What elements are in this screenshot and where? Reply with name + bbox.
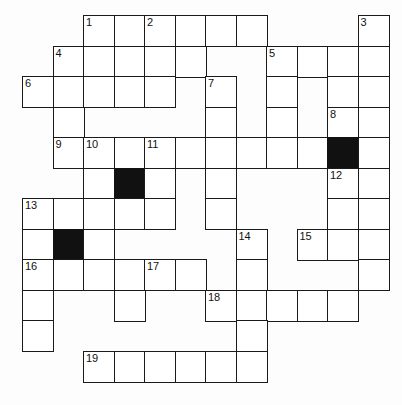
crossword-cell[interactable] xyxy=(358,259,390,291)
crossword-cell[interactable]: 13 xyxy=(22,198,54,230)
crossword-cell[interactable] xyxy=(327,46,359,78)
crossword-cell[interactable] xyxy=(358,198,390,230)
crossword-cell[interactable] xyxy=(83,168,115,200)
clue-number: 15 xyxy=(300,230,312,243)
crossword-cell[interactable]: 12 xyxy=(327,168,359,200)
clue-number: 18 xyxy=(208,291,220,304)
crossword-cell[interactable] xyxy=(144,351,176,383)
crossword-cell[interactable] xyxy=(53,76,85,108)
crossword-cell[interactable] xyxy=(327,198,359,230)
crossword-grid[interactable]: 12345678910111213141516171819 xyxy=(0,0,402,405)
clue-number: 13 xyxy=(25,199,37,212)
crossword-cell[interactable] xyxy=(22,229,54,261)
crossword-cell[interactable] xyxy=(83,198,115,230)
crossword-cell[interactable] xyxy=(236,259,268,291)
crossword-cell[interactable] xyxy=(236,320,268,352)
crossword-cell[interactable] xyxy=(83,259,115,291)
crossword-cell[interactable] xyxy=(53,259,85,291)
crossword-cell[interactable] xyxy=(205,137,237,169)
crossword-cell[interactable] xyxy=(83,76,115,108)
crossword-cell[interactable] xyxy=(144,168,176,200)
crossword-cell[interactable] xyxy=(175,259,207,291)
crossword-cell[interactable]: 2 xyxy=(144,15,176,47)
clue-number: 19 xyxy=(86,352,98,365)
crossword-cell[interactable] xyxy=(358,229,390,261)
crossword-cell[interactable] xyxy=(358,168,390,200)
crossword-puzzle: 12345678910111213141516171819 xyxy=(0,0,402,405)
crossword-cell[interactable]: 7 xyxy=(205,76,237,108)
crossword-block-cell xyxy=(53,229,85,261)
crossword-cell[interactable] xyxy=(205,168,237,200)
clue-number: 6 xyxy=(25,77,31,90)
crossword-cell[interactable] xyxy=(236,351,268,383)
crossword-cell[interactable] xyxy=(53,107,85,139)
crossword-cell[interactable]: 14 xyxy=(236,229,268,261)
crossword-cell[interactable] xyxy=(175,15,207,47)
crossword-cell[interactable] xyxy=(205,107,237,139)
clue-number: 1 xyxy=(86,16,92,29)
crossword-cell[interactable] xyxy=(114,76,146,108)
crossword-cell[interactable] xyxy=(175,46,207,78)
crossword-cell[interactable]: 4 xyxy=(53,46,85,78)
crossword-cell[interactable] xyxy=(22,290,54,322)
clue-number: 8 xyxy=(330,108,336,121)
crossword-cell[interactable] xyxy=(144,198,176,230)
crossword-cell[interactable]: 9 xyxy=(53,137,85,169)
crossword-cell[interactable] xyxy=(358,137,390,169)
crossword-cell[interactable]: 17 xyxy=(144,259,176,291)
clue-number: 12 xyxy=(330,169,342,182)
crossword-cell[interactable]: 15 xyxy=(297,229,329,261)
clue-number: 10 xyxy=(86,138,98,151)
crossword-cell[interactable] xyxy=(297,46,329,78)
crossword-cell[interactable] xyxy=(114,259,146,291)
crossword-cell[interactable] xyxy=(114,137,146,169)
clue-number: 5 xyxy=(269,47,275,60)
crossword-cell[interactable]: 6 xyxy=(22,76,54,108)
crossword-cell[interactable] xyxy=(114,351,146,383)
crossword-cell[interactable] xyxy=(297,290,329,322)
clue-number: 17 xyxy=(147,260,159,273)
crossword-cell[interactable] xyxy=(266,290,298,322)
crossword-cell[interactable] xyxy=(83,46,115,78)
crossword-cell[interactable] xyxy=(358,76,390,108)
crossword-cell[interactable]: 5 xyxy=(266,46,298,78)
crossword-cell[interactable]: 3 xyxy=(358,15,390,47)
crossword-cell[interactable]: 11 xyxy=(144,137,176,169)
crossword-cell[interactable] xyxy=(327,229,359,261)
crossword-cell[interactable] xyxy=(297,137,329,169)
crossword-cell[interactable] xyxy=(327,76,359,108)
crossword-cell[interactable]: 19 xyxy=(83,351,115,383)
crossword-cell[interactable] xyxy=(83,229,115,261)
crossword-cell[interactable] xyxy=(236,137,268,169)
crossword-cell[interactable] xyxy=(327,290,359,322)
crossword-cell[interactable] xyxy=(144,46,176,78)
crossword-cell[interactable] xyxy=(114,198,146,230)
crossword-cell[interactable]: 16 xyxy=(22,259,54,291)
crossword-cell[interactable] xyxy=(22,320,54,352)
crossword-cell[interactable] xyxy=(114,15,146,47)
crossword-cell[interactable] xyxy=(236,15,268,47)
crossword-cell[interactable] xyxy=(114,290,146,322)
clue-number: 7 xyxy=(208,77,214,90)
crossword-cell[interactable]: 1 xyxy=(83,15,115,47)
crossword-cell[interactable] xyxy=(53,198,85,230)
crossword-cell[interactable] xyxy=(358,46,390,78)
crossword-cell[interactable]: 8 xyxy=(327,107,359,139)
crossword-cell[interactable] xyxy=(205,198,237,230)
crossword-cell[interactable] xyxy=(266,137,298,169)
crossword-cell[interactable] xyxy=(358,107,390,139)
crossword-cell[interactable]: 18 xyxy=(205,290,237,322)
crossword-cell[interactable] xyxy=(236,290,268,322)
crossword-cell[interactable] xyxy=(266,107,298,139)
crossword-cell[interactable] xyxy=(266,76,298,108)
clue-number: 9 xyxy=(56,138,62,151)
crossword-cell[interactable] xyxy=(175,351,207,383)
crossword-cell[interactable] xyxy=(114,46,146,78)
crossword-cell[interactable] xyxy=(205,351,237,383)
crossword-cell[interactable] xyxy=(205,15,237,47)
clue-number: 14 xyxy=(239,230,251,243)
crossword-cell[interactable]: 10 xyxy=(83,137,115,169)
clue-number: 2 xyxy=(147,16,153,29)
crossword-cell[interactable] xyxy=(144,76,176,108)
crossword-cell[interactable] xyxy=(175,137,207,169)
